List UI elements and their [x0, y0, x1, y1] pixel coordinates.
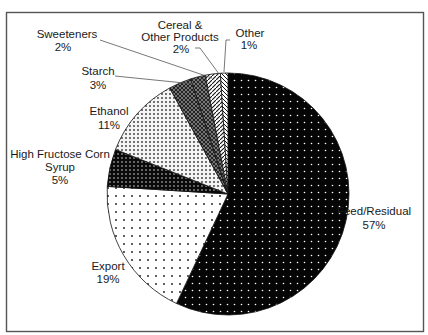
label-starch-pct: 3%	[90, 79, 107, 91]
label-hfcs-pct: 5%	[52, 174, 69, 186]
label-starch: Starch	[81, 65, 114, 77]
label-feed: Feed/Residual	[337, 205, 411, 217]
label-ethanol-pct: 11%	[98, 119, 120, 131]
label-ethanol: Ethanol	[89, 105, 128, 117]
label-cereal-line2: Other Products	[141, 31, 219, 43]
label-export: Export	[91, 260, 125, 272]
label-other: Other	[236, 27, 265, 39]
label-cereal-pct: 2%	[173, 43, 190, 55]
pie-slices	[107, 73, 349, 315]
label-export-pct: 19%	[96, 273, 119, 285]
label-hfcs-line1: High Fructose Corn	[10, 148, 110, 160]
label-sweeteners: Sweeteners	[37, 28, 98, 40]
label-feed-pct: 57%	[362, 219, 385, 231]
pie-chart: Sweeteners 2% Cereal & Other Products 2%…	[0, 0, 428, 335]
label-cereal-line1: Cereal &	[158, 19, 203, 31]
label-sweeteners-pct: 2%	[55, 41, 72, 53]
label-other-pct: 1%	[241, 39, 258, 51]
label-hfcs-line2: Syrup	[45, 161, 75, 173]
